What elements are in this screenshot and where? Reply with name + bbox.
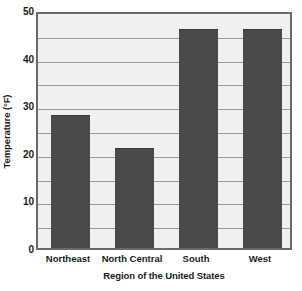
bar — [115, 148, 154, 248]
y-axis-tick-label: 50 — [13, 7, 34, 17]
y-axis-tick-label: 40 — [13, 55, 34, 65]
bar — [51, 115, 90, 248]
plot-inner — [38, 14, 290, 248]
bar-chart: Temperature (°F) 01020304050 NortheastNo… — [0, 0, 302, 291]
y-axis-tick-label: 10 — [13, 197, 34, 207]
bar — [243, 29, 282, 248]
plot-area — [36, 12, 292, 250]
y-axis-tick-label: 0 — [13, 245, 34, 255]
bar — [179, 29, 218, 248]
x-axis-tick-label: North Central — [102, 253, 163, 264]
y-axis-title-label: Temperature (°F) — [2, 94, 13, 168]
x-axis-tick-label: Northeast — [46, 253, 90, 264]
y-axis-tick-label: 30 — [13, 102, 34, 112]
y-axis-title: Temperature (°F) — [0, 12, 14, 250]
x-axis-tick-labels: NortheastNorth CentralSouthWest — [36, 253, 292, 268]
x-axis-tick-label: South — [183, 253, 210, 264]
x-axis-title: Region of the United States — [36, 270, 292, 281]
y-axis-tick-label: 20 — [13, 150, 34, 160]
bars-group — [38, 14, 290, 248]
x-axis-tick-label: West — [249, 253, 272, 264]
y-axis-tick-labels: 01020304050 — [13, 12, 34, 250]
